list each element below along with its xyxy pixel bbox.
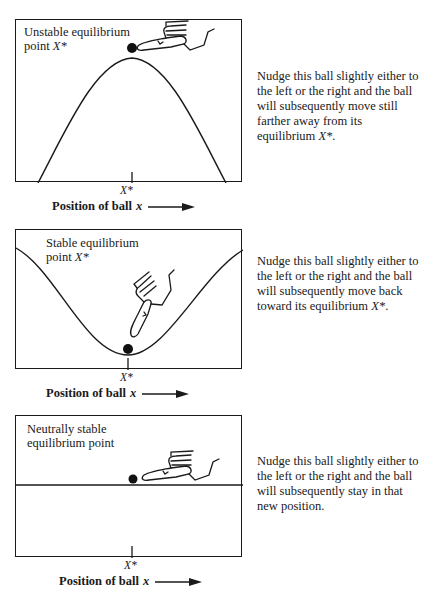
neutral-description: Nudge this ball slightly either to the l… — [257, 454, 422, 514]
ball-icon — [129, 475, 138, 484]
neutral-equilibrium-panel: Neutrally stable equilibrium point — [15, 415, 242, 557]
stable-description: Nudge this ball slightly either to the l… — [257, 254, 422, 314]
right-arrow-icon — [148, 202, 196, 212]
panel-title: Neutrally stable equilibrium point — [27, 422, 114, 450]
tick-label-x-star: X* — [124, 559, 137, 571]
pointing-hand-icon — [142, 451, 219, 480]
pointing-hand-icon — [137, 21, 214, 50]
x-axis-label: Position of ballx — [59, 574, 203, 589]
tick-label-x-star: X* — [120, 371, 133, 383]
unstable-description: Nudge this ball slightly either to the l… — [257, 69, 422, 144]
pointing-hand-icon — [131, 270, 174, 337]
right-arrow-icon — [155, 577, 203, 587]
stable-equilibrium-panel: Stable equilibrium point X* — [15, 229, 242, 369]
panel-title: Stable equilibrium point X* — [46, 236, 139, 264]
x-axis-label: Position of ballx — [46, 386, 190, 401]
x-axis-label: Position of ballx — [52, 199, 196, 214]
panel-title: Unstable equilibrium point X* — [24, 25, 130, 53]
tick-label-x-star: X* — [120, 184, 133, 196]
ball-icon — [123, 344, 133, 354]
unstable-equilibrium-panel: Unstable equilibrium point X* — [15, 19, 242, 182]
right-arrow-icon — [142, 389, 190, 399]
